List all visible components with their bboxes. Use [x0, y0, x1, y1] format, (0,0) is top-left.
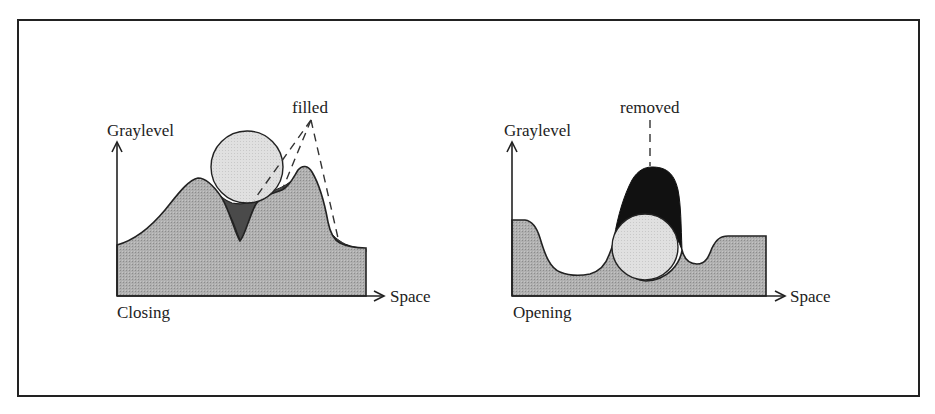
- closing-panel-title: Closing: [117, 304, 170, 321]
- closing-structuring-ball: [211, 131, 283, 203]
- closing-annotation-filled: filled: [292, 99, 328, 116]
- closing-panel: [112, 120, 384, 301]
- opening-panel-title: Opening: [513, 304, 572, 321]
- closing-y-axis-label: Graylevel: [107, 122, 174, 139]
- closing-x-axis-label: Space: [390, 288, 431, 305]
- opening-panel: [507, 120, 785, 301]
- opening-x-axis-label: Space: [790, 288, 831, 305]
- opening-annotation-removed: removed: [620, 99, 679, 116]
- opening-y-axis-label: Graylevel: [504, 122, 571, 139]
- morphology-diagram: [0, 0, 935, 414]
- opening-structuring-ball: [612, 214, 678, 280]
